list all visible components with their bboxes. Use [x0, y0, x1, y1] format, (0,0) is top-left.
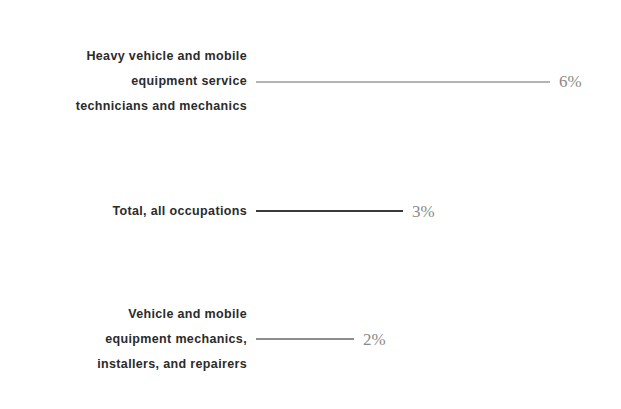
- bar-chart-row: Vehicle and mobile equipment mechanics, …: [0, 288, 621, 390]
- bar-track: 3%: [256, 203, 621, 220]
- category-label: Heavy vehicle and mobile equipment servi…: [0, 44, 247, 119]
- bar-track: 6%: [256, 73, 621, 90]
- bar-chart: Heavy vehicle and mobile equipment servi…: [0, 0, 621, 409]
- bar-vehicle-mechanics-installers-repairers: [256, 338, 354, 340]
- bar-heavy-vehicle-technicians: [256, 81, 550, 83]
- bar-value-label: 6%: [559, 73, 582, 90]
- category-label: Total, all occupations: [0, 199, 247, 224]
- bar-value-label: 2%: [363, 331, 386, 348]
- bar-total-all-occupations: [256, 210, 403, 212]
- bar-chart-row: Heavy vehicle and mobile equipment servi…: [0, 29, 621, 134]
- category-label: Vehicle and mobile equipment mechanics, …: [0, 302, 247, 377]
- bar-chart-row: Total, all occupations 3%: [0, 160, 621, 262]
- bar-value-label: 3%: [412, 203, 435, 220]
- bar-track: 2%: [256, 331, 621, 348]
